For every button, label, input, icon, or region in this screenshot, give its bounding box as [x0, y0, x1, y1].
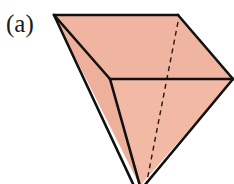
front-face	[110, 79, 233, 184]
polyhedron-figure	[0, 0, 234, 184]
